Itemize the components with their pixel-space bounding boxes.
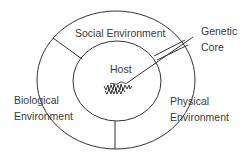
divider-social-biological — [53, 38, 82, 59]
label-biological-environment: Environment — [14, 110, 73, 122]
label-biological: Biological — [14, 94, 59, 106]
label-genetic: Genetic — [201, 25, 237, 37]
epidemiologic-wheel-diagram: Social Environment Host Genetic Core Bio… — [0, 0, 247, 159]
genetic-core-scribble — [104, 82, 132, 94]
label-host: Host — [110, 63, 132, 75]
host-circle — [73, 41, 161, 121]
genetic-core-pointer — [127, 37, 193, 83]
label-physical-environment: Environment — [170, 111, 229, 123]
label-physical: Physical — [170, 95, 209, 107]
label-core: Core — [201, 41, 224, 53]
label-social-environment: Social Environment — [75, 27, 166, 39]
